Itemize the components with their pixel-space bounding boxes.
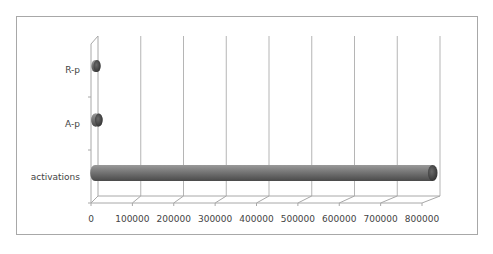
x-tick-label: 0 [88, 214, 94, 224]
x-tick-label: 200000 [157, 214, 191, 224]
x-tick-label: 800000 [405, 214, 439, 224]
floor-ticks [91, 196, 440, 206]
x-tick-label: 500000 [281, 214, 315, 224]
bar-a-p [91, 114, 103, 127]
bars [90, 60, 437, 181]
category-label-activations: activations [10, 172, 80, 182]
x-tick-label: 600000 [322, 214, 356, 224]
x-tick-label: 700000 [363, 214, 397, 224]
x-tick-label: 400000 [239, 214, 273, 224]
x-tick-label: 300000 [198, 214, 232, 224]
category-label-a-p: A-p [10, 119, 80, 129]
bar-activations [90, 165, 437, 181]
bar-r-p [91, 60, 100, 72]
x-tick-label: 100000 [115, 214, 149, 224]
category-label-r-p: R-p [10, 65, 80, 75]
